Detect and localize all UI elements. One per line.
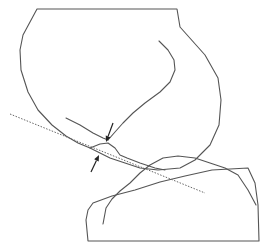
contact-diagram [0, 0, 267, 249]
upper-body-outline [20, 9, 221, 170]
upper-body [20, 9, 221, 170]
upper-body-inner-curve [108, 41, 175, 140]
lower-body-outline [86, 168, 259, 241]
lower-arrow-icon [91, 155, 99, 172]
tangent-line [10, 114, 205, 193]
gap-arrows [91, 123, 113, 172]
lower-body-inner-curve [103, 156, 256, 224]
upper-body-lower-curve [66, 118, 108, 140]
contact-curve [90, 143, 165, 170]
